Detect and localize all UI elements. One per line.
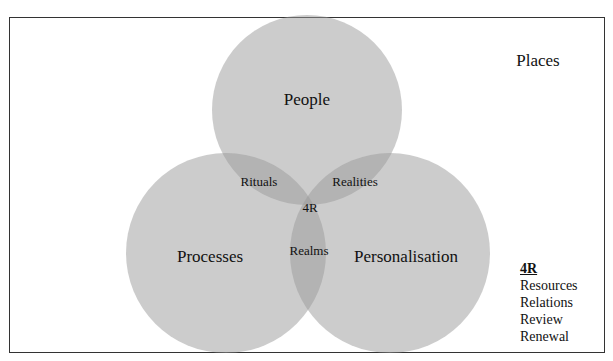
people-label: People [284,90,330,110]
center-4r-label: 4R [302,200,317,216]
places-label: Places [516,51,559,71]
legend-title: 4R [520,260,578,277]
rituals-label: Rituals [241,174,278,190]
realities-label: Realities [332,174,378,190]
legend: 4R Resources Relations Review Renewal [520,260,578,345]
legend-item: Renewal [520,328,578,345]
realms-label: Realms [290,243,329,259]
legend-item: Relations [520,294,578,311]
legend-item: Review [520,311,578,328]
legend-item: Resources [520,277,578,294]
personalisation-label: Personalisation [354,247,458,267]
processes-label: Processes [177,247,243,267]
